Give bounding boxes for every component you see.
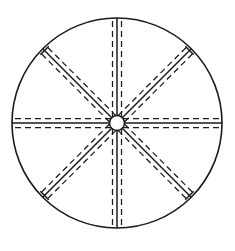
spoke-south: [113, 129, 122, 228]
spoke-northwest-spoke-edge-hidden-line-2: [46, 46, 116, 116]
spoke-northwest-spoke-centre-line: [43, 49, 112, 118]
hub-circle: [110, 116, 125, 131]
spoke-west: [12, 119, 111, 128]
hub-circle-group: [110, 116, 125, 131]
spoke-northeast-spoke-centre-line: [122, 49, 191, 118]
spoke-southwest-spoke-edge-hidden-line-1: [46, 130, 116, 200]
spoke-southeast-spoke-edge-hidden-line-1: [124, 124, 194, 194]
spoke-southeast-spoke-centre-line: [122, 128, 191, 197]
spoke-northeast-spoke-edge-hidden-line-1: [118, 46, 188, 116]
spoke-southeast: [118, 124, 194, 200]
spoke-southwest: [40, 124, 116, 200]
spoke-northeast: [118, 46, 194, 122]
spoke-southwest-spoke-edge-hidden-line-2: [40, 124, 110, 194]
wheel-diagram-figure: [0, 0, 235, 251]
spoke-northeast-spoke-edge-hidden-line-2: [124, 52, 194, 122]
spoke-southeast-spoke-edge-hidden-line-2: [118, 130, 188, 200]
spoke-north: [113, 18, 122, 117]
spoke-east: [123, 119, 222, 128]
spoke-northwest-spoke-edge-hidden-line-1: [40, 52, 110, 122]
spoke-southwest-spoke-centre-line: [43, 128, 112, 197]
wheel-diagram-canvas: [0, 0, 235, 251]
spoke-northwest: [40, 46, 116, 122]
